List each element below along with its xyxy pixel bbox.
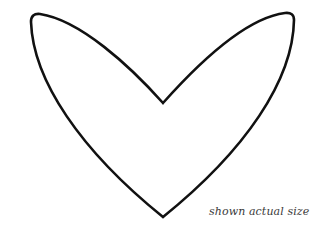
heart-path [31, 13, 294, 217]
figure-caption: shown actual size [209, 205, 309, 218]
heart-template-figure [0, 0, 325, 234]
heart-outline-icon [0, 0, 325, 234]
